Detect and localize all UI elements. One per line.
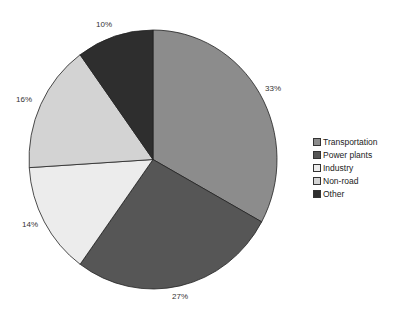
legend-label: Industry [323,163,353,173]
slice-label-power-plants: 27% [172,292,188,301]
legend-item-industry: Industry [313,161,378,174]
legend-item-power-plants: Power plants [313,148,378,161]
legend-label: Other [323,189,344,199]
legend-swatch [313,190,321,198]
legend-label: Non-road [323,176,358,186]
legend: Transportation Power plants Industry Non… [313,135,378,200]
slice-label-transportation: 33% [265,84,281,93]
slice-label-non-road: 16% [16,95,32,104]
legend-swatch [313,151,321,159]
legend-swatch [313,177,321,185]
slice-label-industry: 14% [22,220,38,229]
legend-label: Transportation [323,137,378,147]
legend-item-other: Other [313,187,378,200]
legend-swatch [313,138,321,146]
legend-item-non-road: Non-road [313,174,378,187]
slice-label-other: 10% [96,20,112,29]
legend-item-transportation: Transportation [313,135,378,148]
legend-swatch [313,164,321,172]
legend-label: Power plants [323,150,372,160]
